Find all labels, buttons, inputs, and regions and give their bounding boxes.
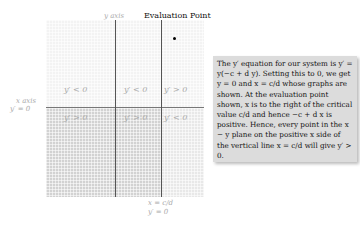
region-label-upper-middle: y′ < 0 <box>124 85 147 94</box>
x-axis-equation: y′ = 0 <box>10 105 30 113</box>
x-axis-line <box>46 107 204 108</box>
vertical-line-equation: x = c/d <box>148 199 173 207</box>
explanation-box: The y′ equation for our system is y′ = y… <box>213 56 357 162</box>
region-label-lower-middle: y′ > 0 <box>124 113 147 122</box>
region-label-lower-right: y′ < 0 <box>164 113 187 122</box>
region-label-upper-right: y′ > 0 <box>164 85 187 94</box>
y-axis-line <box>115 20 116 197</box>
phase-plane: y′ < 0 y′ < 0 y′ > 0 y′ > 0 y′ > 0 y′ < … <box>46 20 204 197</box>
vertical-line-derivative: y′ = 0 <box>148 208 168 216</box>
upper-region <box>46 20 204 108</box>
region-label-upper-left: y′ < 0 <box>64 85 87 94</box>
evaluation-point-marker <box>173 37 176 40</box>
region-label-lower-left: y′ > 0 <box>64 113 87 122</box>
evaluation-point-label: Evaluation Point <box>144 11 211 20</box>
y-axis-label: y axis <box>104 12 124 20</box>
critical-vertical-line <box>161 20 162 197</box>
x-axis-label: x axis <box>16 97 36 105</box>
